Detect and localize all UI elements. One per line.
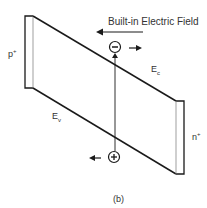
p-label-sup: + (13, 48, 17, 54)
ec-label-sub: c (157, 70, 160, 76)
hole-icon (109, 152, 120, 163)
band-diagram-graphics (0, 0, 207, 208)
figure-caption: (b) (113, 195, 124, 204)
valence-band-edge (33, 88, 176, 174)
electron-icon (110, 42, 121, 53)
valence-band-label: Ev (52, 112, 61, 123)
electric-field-arrow (96, 29, 143, 36)
n-region-block (176, 101, 184, 174)
p-region-block (25, 16, 33, 88)
ev-label-sub: v (58, 117, 61, 123)
conduction-band-edge (33, 16, 176, 101)
n-label-sup: + (197, 131, 201, 137)
n-region-label: n+ (192, 131, 201, 142)
p-region-label: p+ (8, 48, 17, 59)
electron-drift-arrow (129, 45, 142, 51)
conduction-band-label: Ec (151, 65, 160, 76)
hole-drift-arrow (89, 155, 101, 161)
field-label: Built-in Electric Field (108, 17, 199, 27)
band-diagram: Built-in Electric Field p+ n+ Ec Ev (b) (0, 0, 207, 208)
